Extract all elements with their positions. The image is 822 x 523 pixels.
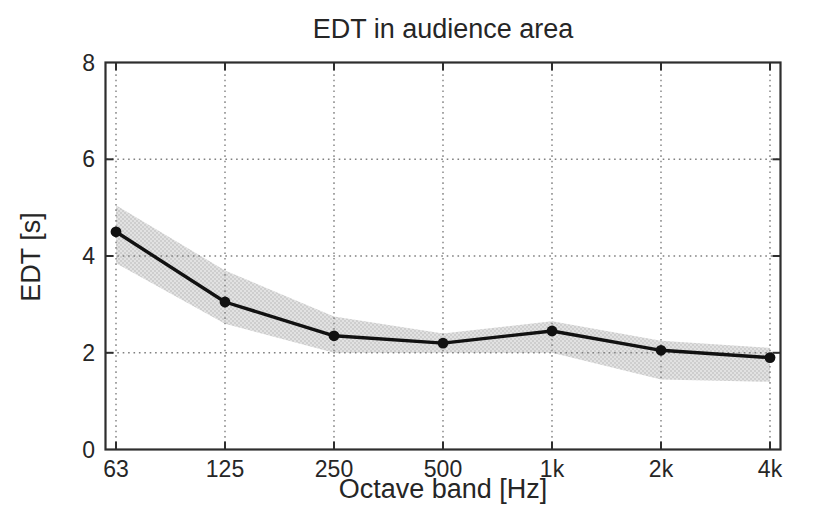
y-tick-label-0: 0: [82, 437, 95, 463]
data-point-63: [111, 226, 122, 237]
edt-audience-area-figure: 631252505001k2k4k02468 EDT in audience a…: [0, 0, 822, 523]
data-point-4k: [765, 352, 776, 363]
y-tick-label-8: 8: [82, 50, 95, 76]
y-tick-label-2: 2: [82, 340, 95, 366]
y-tick-label-4: 4: [82, 243, 95, 269]
x-axis-title: Octave band [Hz]: [105, 474, 781, 505]
data-point-125: [220, 297, 231, 308]
chart-title: EDT in audience area: [105, 14, 781, 45]
data-point-500: [438, 338, 449, 349]
plot-area: 631252505001k2k4k02468: [0, 0, 822, 523]
data-point-250: [329, 330, 340, 341]
data-point-2k: [656, 345, 667, 356]
data-point-1k: [547, 326, 558, 337]
y-tick-label-6: 6: [82, 146, 95, 172]
y-axis-title: EDT [s]: [16, 212, 47, 302]
